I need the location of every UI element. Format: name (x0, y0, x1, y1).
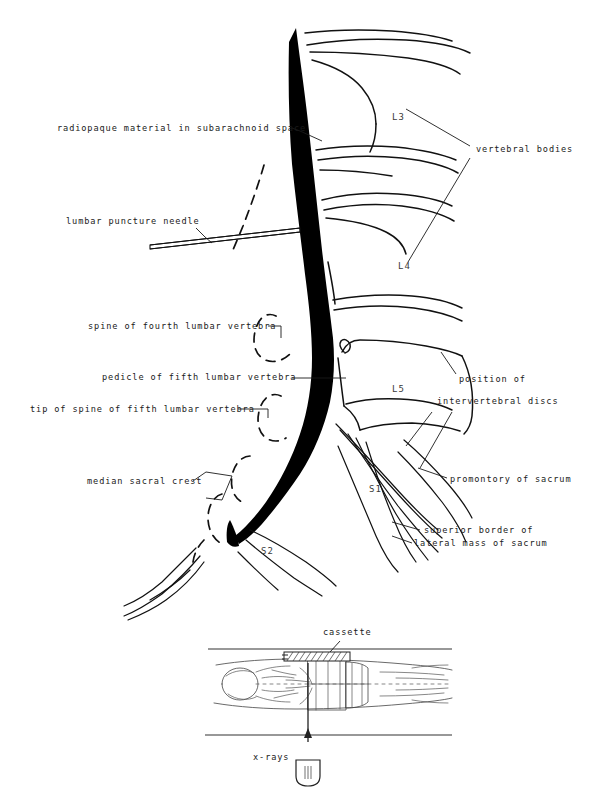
leader-discs-lower-a (406, 412, 432, 446)
dashed-spine-L3 (231, 165, 264, 254)
label-pedicle-fifth-lumbar: pedicle of fifth lumbar vertebra (102, 372, 296, 382)
lumbar-puncture-needle-shape (150, 228, 300, 249)
label-promontory-of-sacrum: promontory of sacrum (450, 474, 571, 484)
label-spine-fourth-lumbar: spine of fourth lumbar vertebra (88, 321, 276, 331)
label-median-sacral-crest: median sacral crest (87, 476, 202, 486)
label-lumbar-puncture-needle: lumbar puncture needle (66, 216, 200, 226)
lumbar-region-block (308, 660, 368, 710)
right-label-group: vertebral bodies position of interverteb… (414, 144, 573, 548)
label-position-of-discs-line2: intervertebral discs (437, 396, 558, 406)
xray-tube (296, 760, 320, 786)
leader-promontory (418, 468, 447, 478)
leader-discs-lower-b (420, 412, 452, 468)
leader-vertebral-bodies-l4 (408, 158, 470, 262)
positioning-inset: cassette x-rays (205, 627, 452, 786)
leader-cassette (330, 641, 340, 652)
xray-beam (304, 663, 312, 742)
leader-needle (196, 228, 212, 243)
leader-vertebral-bodies-l3 (406, 109, 470, 146)
label-vertebral-bodies: vertebral bodies (476, 144, 573, 154)
cassette-plate (282, 652, 350, 661)
radiopaque-contrast-column (227, 28, 334, 547)
label-vertebra-S1: S1 (369, 484, 382, 494)
label-vertebra-L3: L3 (392, 112, 405, 122)
label-tip-spine-fifth-lumbar: tip of spine of fifth lumbar vertebra (30, 404, 255, 414)
label-cassette: cassette (323, 627, 372, 637)
figure-page: radiopaque material in subarachnoid spac… (0, 0, 593, 804)
leader-discs-upper (441, 352, 456, 374)
label-superior-border-line2: lateral mass of sacrum (414, 538, 548, 548)
dashed-sacral-crest-lower (208, 494, 222, 544)
label-vertebra-L4: L4 (398, 261, 411, 271)
label-vertebra-S2: S2 (261, 546, 274, 556)
contrast-column-body (235, 28, 334, 544)
label-superior-border-line1: superior border of (424, 525, 533, 535)
label-position-of-discs-line1: position of (459, 374, 526, 384)
label-radiopaque-material: radiopaque material in subarachnoid spac… (57, 123, 306, 133)
label-x-rays: x-rays (253, 752, 289, 762)
dashed-sacral-crest-upper (231, 456, 250, 502)
contrast-column-tip (227, 520, 239, 547)
left-label-group: radiopaque material in subarachnoid spac… (30, 123, 306, 486)
label-vertebra-L5: L5 (392, 384, 405, 394)
myelogram-illustration: radiopaque material in subarachnoid spac… (0, 0, 593, 804)
dashed-spine-L5 (258, 395, 286, 442)
